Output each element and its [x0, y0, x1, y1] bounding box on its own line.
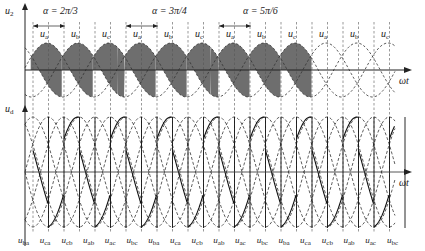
- line-voltage-label: ubc: [257, 235, 268, 247]
- line-voltage-label: uac: [235, 235, 246, 247]
- phase-label: ub: [257, 28, 266, 41]
- phase-label: uc: [102, 28, 110, 41]
- u2-axis-label: u2: [5, 5, 14, 18]
- phase-label: ub: [71, 28, 80, 41]
- line-voltage-label: ubc: [127, 235, 138, 247]
- alpha-label: α = 3π/4: [152, 5, 187, 16]
- top-omega-t-label: ωt: [399, 75, 409, 86]
- phase-label: ua: [133, 28, 142, 41]
- line-voltage-label: ucb: [322, 235, 334, 247]
- phase-labels: uaubucuaubucuaubucuaubuc: [40, 28, 389, 41]
- waveform-figure: u2 ud ωt ωt uaubucuaubucuaubucuaubuc α =…: [0, 0, 425, 251]
- phase-label: ub: [350, 28, 359, 41]
- ud-axis-arrow-icon: [22, 105, 28, 112]
- line-voltage-label: uab: [83, 235, 95, 247]
- phase-label: uc: [381, 28, 389, 41]
- line-voltage-label: uac: [365, 235, 376, 247]
- phase-label: ua: [40, 28, 49, 41]
- top-x-axis-arrow-icon: [404, 67, 412, 73]
- alpha-label: α = 2π/3: [43, 5, 78, 16]
- line-voltage-label: uca: [40, 235, 52, 247]
- line-voltage-label: uba: [18, 235, 30, 247]
- line-voltage-label: uca: [170, 235, 182, 247]
- line-voltage-label: uca: [300, 235, 312, 247]
- line-voltage-label: uab: [213, 235, 225, 247]
- ud-axis-label: ud: [5, 103, 14, 116]
- line-voltage-label: uba: [278, 235, 290, 247]
- alpha-annotations: α = 2π/3α = 3π/4α = 5π/6: [33, 5, 278, 28]
- line-voltage-label: ucb: [192, 235, 204, 247]
- arrow-left-icon: [33, 24, 38, 28]
- line-voltage-label: ubc: [387, 235, 398, 247]
- phase-label: ua: [226, 28, 235, 41]
- axes: [22, 3, 412, 246]
- bottom-x-axis-arrow-icon: [404, 169, 412, 175]
- y-axis-arrow-icon: [22, 3, 28, 10]
- alpha-label: α = 5π/6: [243, 5, 278, 16]
- arrow-left-icon: [219, 24, 224, 28]
- phase-label: uc: [195, 28, 203, 41]
- line-voltage-label: uac: [105, 235, 116, 247]
- line-voltage-label: uba: [148, 235, 160, 247]
- line-voltage-labels: ubaucaucbuabuacubcubaucaucbuabuacubcubau…: [18, 235, 398, 247]
- phase-label: ub: [164, 28, 173, 41]
- phase-label: ua: [319, 28, 328, 41]
- line-voltage-label: uab: [344, 235, 356, 247]
- three-phase-waveform-diagram: u2 ud ωt ωt uaubucuaubucuaubucuaubuc α =…: [0, 0, 425, 251]
- phase-label: uc: [288, 28, 296, 41]
- arrow-left-icon: [126, 24, 131, 28]
- output-voltage-ud: [33, 117, 405, 228]
- bottom-omega-t-label: ωt: [399, 177, 409, 188]
- line-voltage-label: ucb: [61, 235, 73, 247]
- labels: u2 ud ωt ωt: [5, 5, 409, 188]
